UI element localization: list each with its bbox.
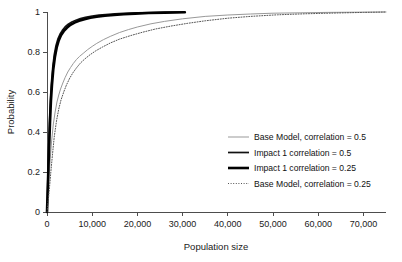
y-tick-label: 0.8 [27,47,40,57]
legend-label-1: Impact 1 correlation = 0.5 [254,148,351,158]
x-tick-label: 30,000 [169,219,197,229]
y-tick-label: 0.4 [27,127,40,137]
chart-legend: Base Model, correlation = 0.5Impact 1 co… [228,132,371,189]
x-tick-label: 70,000 [350,219,378,229]
x-tick-label: 20,000 [124,219,152,229]
y-axis-tick-group: 00.20.40.60.81 [27,7,47,217]
legend-label-3: Base Model, correlation = 0.25 [254,179,371,189]
x-axis-title: Population size [184,241,248,252]
y-tick-label: 0 [35,207,40,217]
legend-label-2: Impact 1 correlation = 0.25 [254,163,356,173]
x-tick-label: 60,000 [304,219,332,229]
x-tick-label: 0 [44,219,49,229]
series-line-1 [47,12,183,212]
y-tick-label: 1 [35,7,40,17]
y-axis-title: Probability [5,90,16,135]
x-tick-label: 50,000 [259,219,287,229]
y-tick-label: 0.2 [27,167,40,177]
x-tick-label: 10,000 [78,219,106,229]
x-tick-label: 40,000 [214,219,242,229]
x-axis-tick-group: 010,00020,00030,00040,00050,00060,00070,… [44,212,377,229]
figure-container: 00.20.40.60.81 010,00020,00030,00040,000… [0,0,402,262]
y-tick-label: 0.6 [27,87,40,97]
series-line-2 [47,12,185,212]
legend-label-0: Base Model, correlation = 0.5 [254,132,366,142]
chart-canvas: 00.20.40.60.81 010,00020,00030,00040,000… [0,0,402,262]
